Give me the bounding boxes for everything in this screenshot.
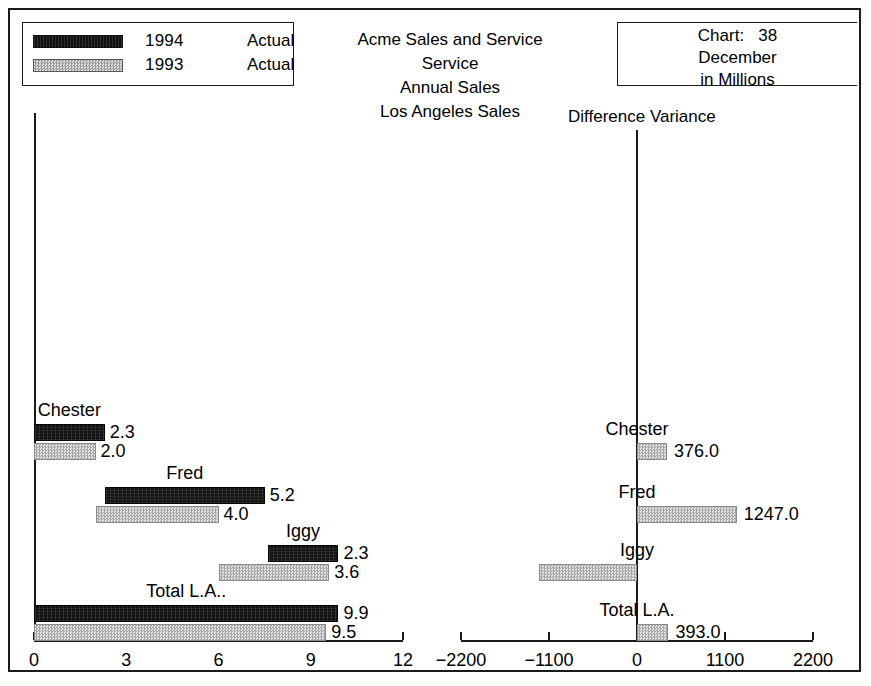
variance-bar-iggy (539, 564, 637, 581)
bar-total-l-a--1993 (34, 624, 326, 641)
right-chart-tick-label: −2200 (436, 650, 487, 671)
left-chart-tick-label: 12 (393, 650, 413, 671)
legend-year: 1994 (145, 31, 199, 51)
right-chart-tick (460, 632, 462, 640)
left-chart-y-axis (34, 113, 36, 640)
legend-year: 1993 (145, 55, 199, 75)
bar-iggy-1994 (268, 545, 339, 562)
variance-bar-fred (637, 506, 737, 523)
bar-value-label: 2.0 (101, 443, 126, 460)
right-chart-tick-label: 2200 (793, 650, 833, 671)
right-chart-tick-label: 0 (632, 650, 642, 671)
chart-units: in Millions (618, 69, 857, 91)
legend: 1994 Actual 1993 Actual (22, 22, 294, 86)
title-line-3: Annual Sales (300, 76, 600, 100)
bar-value-label: 9.9 (343, 605, 368, 622)
title-line-1: Acme Sales and Service (300, 28, 600, 52)
variance-group-label-chester: Chester (605, 419, 668, 440)
bar-value-label: 5.2 (270, 487, 295, 504)
variance-group-label-fred: Fred (618, 482, 655, 503)
legend-row: 1993 Actual (33, 55, 294, 75)
group-label-total-l-a-: Total L.A.. (146, 581, 226, 602)
right-chart-tick-label: 1100 (706, 650, 745, 671)
group-label-chester: Chester (38, 400, 101, 421)
variance-value-label: 1247.0 (744, 506, 799, 523)
bar-fred-1993 (96, 506, 219, 523)
gray-swatch-icon (33, 59, 123, 72)
legend-kind: Actual (247, 55, 294, 75)
right-chart-tick (548, 632, 550, 640)
left-chart-tick-label: 0 (29, 650, 39, 671)
bar-value-label: 9.5 (331, 624, 356, 641)
variance-value-label: 393.0 (675, 624, 720, 641)
bar-value-label: 2.3 (343, 545, 368, 562)
variance-group-label-iggy: Iggy (620, 540, 654, 561)
bar-fred-1994 (105, 487, 265, 504)
group-label-iggy: Iggy (286, 521, 320, 542)
right-chart-tick (812, 632, 814, 640)
legend-row: 1994 Actual (33, 31, 294, 51)
chart-info: Chart: 38 December in Millions (617, 22, 857, 86)
chart-title: Acme Sales and Service Service Annual Sa… (300, 28, 600, 124)
variance-panel-title: Difference Variance (568, 107, 716, 127)
black-swatch-icon (33, 35, 123, 48)
bar-chester-1994 (34, 424, 105, 441)
left-chart-tick-label: 6 (213, 650, 223, 671)
chart-period: December (618, 47, 857, 69)
right-chart-tick (724, 632, 726, 640)
left-chart-tick (402, 632, 404, 640)
bar-iggy-1993 (219, 564, 330, 581)
bar-value-label: 3.6 (334, 564, 359, 581)
bar-total-l-a--1994 (34, 605, 338, 622)
left-chart-tick-label: 9 (306, 650, 316, 671)
legend-kind: Actual (247, 31, 294, 51)
bar-value-label: 2.3 (110, 424, 135, 441)
left-chart-tick-label: 3 (121, 650, 131, 671)
bar-value-label: 4.0 (224, 506, 249, 523)
variance-bar-chester (637, 443, 667, 460)
title-line-4: Los Angeles Sales (300, 100, 600, 124)
group-label-fred: Fred (166, 463, 203, 484)
variance-group-label-total-l-a-: Total L.A. (599, 600, 674, 621)
variance-bar-total-l-a- (637, 624, 668, 641)
title-line-2: Service (300, 52, 600, 76)
variance-value-label: 376.0 (674, 443, 719, 460)
right-chart-tick-label: −1100 (524, 650, 573, 671)
chart-number: Chart: 38 (618, 25, 857, 47)
chart-page: 1994 Actual 1993 Actual Acme Sales and S… (0, 0, 871, 686)
bar-chester-1993 (34, 443, 96, 460)
